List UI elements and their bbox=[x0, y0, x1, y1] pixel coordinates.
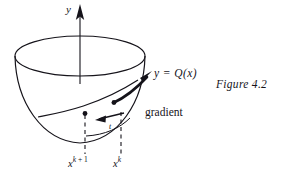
x-current-superscript: k bbox=[118, 155, 121, 164]
y-axis-label: y bbox=[66, 4, 71, 15]
gradient-arrow-shaft bbox=[113, 77, 147, 103]
figure-canvas: y y = Q(x) gradient Figure 4.2 t xk + 1 … bbox=[0, 0, 288, 179]
figure-caption: Figure 4.2 bbox=[216, 79, 267, 91]
bowl-left-wall bbox=[15, 56, 80, 143]
gradient-label: gradient bbox=[145, 107, 183, 119]
x-next-label: xk + 1 bbox=[68, 156, 88, 169]
step-size-label: t bbox=[109, 123, 111, 131]
gradient-arrowhead bbox=[140, 71, 153, 84]
step-arrowhead bbox=[95, 116, 106, 123]
x-next-superscript-tail: + 1 bbox=[76, 155, 88, 164]
x-current-label: xk bbox=[113, 156, 121, 169]
surface-equation-label: y = Q(x) bbox=[154, 68, 197, 80]
